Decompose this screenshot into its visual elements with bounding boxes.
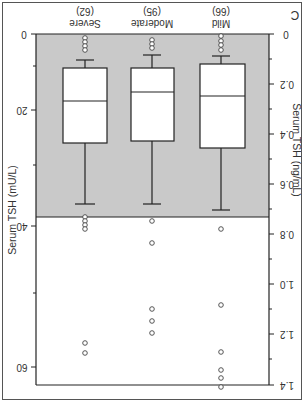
figure-panel: 0 0.2 0.4 0.6 0.8 1.0 1.2 1.4 0 20 40 60…: [0, 0, 306, 404]
figure-border: [2, 2, 302, 400]
